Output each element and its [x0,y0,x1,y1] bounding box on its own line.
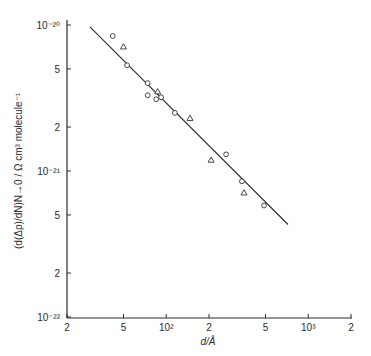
triangle-marker [121,44,127,49]
y-axis-label: (d(Δρ)/dN)N→0 / Ω cm³ molecule⁻¹ [13,92,24,249]
x-ticks: 2510²2510³2 [64,314,354,333]
x-tick-label: 5 [121,322,127,333]
x-tick-label: 5 [263,322,269,333]
regression-line [90,27,288,225]
y-tick-label: 2 [54,122,60,133]
y-tick-label: 10⁻²² [37,312,60,323]
circle-marker [110,34,115,39]
x-tick-label: 10² [159,322,174,333]
axes [67,20,352,318]
svg-text:(d(Δρ)/dN)N→0 / Ω cm³ molecule: (d(Δρ)/dN)N→0 / Ω cm³ molecule⁻¹ [13,92,24,249]
y-tick-label: 10⁻²⁰ [37,20,60,31]
y-tick-label: 5 [54,210,60,221]
x-axis-label: d/Å [200,335,215,347]
x-tick-label: 10³ [301,322,316,333]
y-tick-label: 5 [54,64,60,75]
y-tick-label: 2 [54,268,60,279]
circle-marker [224,152,229,157]
data-points [110,34,266,208]
log-log-scatter-chart: 2510²2510³2 10⁻²²2510⁻²¹2510⁻²⁰ d/Å (d(Δ… [0,0,371,356]
x-tick-label: 2 [348,322,354,333]
circle-marker [262,203,267,208]
y-ticks: 10⁻²²2510⁻²¹2510⁻²⁰ [37,20,71,323]
triangle-marker [208,157,214,162]
circle-marker [125,63,130,68]
circle-marker [240,179,245,184]
circle-marker [145,93,150,98]
triangle-marker [241,190,247,195]
triangle-marker [155,89,161,94]
x-tick-label: 2 [64,322,70,333]
circle-marker [145,81,150,86]
triangle-marker [187,115,193,120]
y-tick-label: 10⁻²¹ [37,166,60,177]
fit-line [90,27,288,225]
x-tick-label: 2 [206,322,212,333]
circle-marker [172,111,177,116]
circle-marker [154,97,159,102]
circle-marker [159,95,164,100]
